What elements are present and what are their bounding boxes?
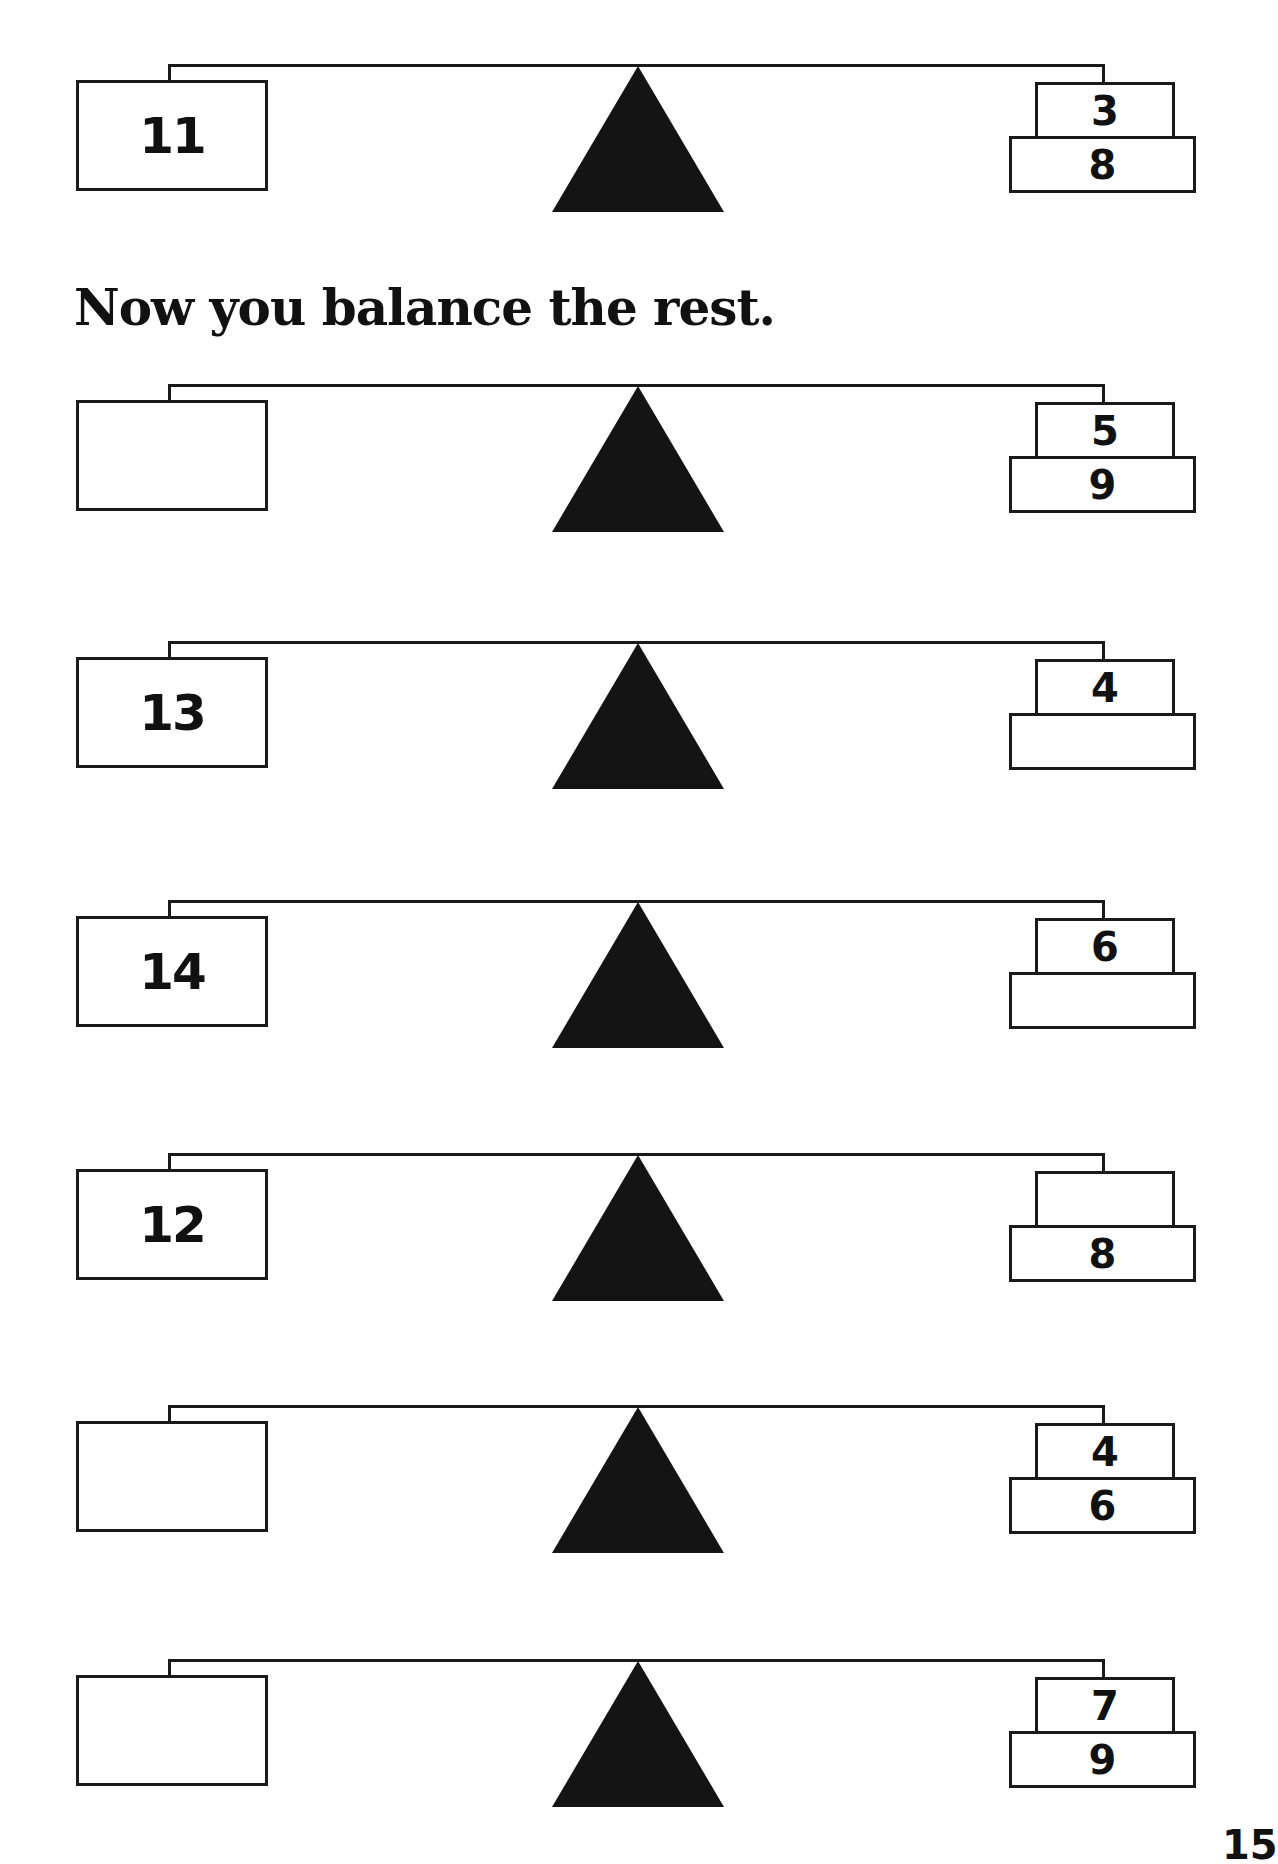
right-bottom-weight-box[interactable]: 9	[1009, 456, 1196, 513]
beam-post-right	[1102, 641, 1105, 661]
left-weight-box[interactable]	[76, 1421, 268, 1532]
beam-post-right	[1102, 1405, 1105, 1425]
page-number: 15	[1222, 1822, 1278, 1864]
left-weight-box[interactable]: 12	[76, 1169, 268, 1280]
left-weight-box[interactable]: 14	[76, 916, 268, 1027]
left-weight-box[interactable]	[76, 400, 268, 511]
right-top-weight-box[interactable]: 7	[1035, 1677, 1175, 1734]
fulcrum-triangle-icon	[552, 386, 724, 532]
beam-post-right	[1102, 900, 1105, 920]
right-bottom-weight-box[interactable]: 6	[1009, 1477, 1196, 1534]
right-top-weight-box[interactable]: 4	[1035, 659, 1175, 716]
fulcrum-triangle-icon	[552, 1661, 724, 1807]
right-top-weight-box[interactable]: 6	[1035, 918, 1175, 975]
fulcrum-triangle-icon	[552, 1407, 724, 1553]
beam-post-right	[1102, 384, 1105, 404]
beam-post-right	[1102, 1659, 1105, 1679]
beam-post-right	[1102, 1153, 1105, 1173]
right-top-weight-box[interactable]: 5	[1035, 402, 1175, 459]
balance-scale-problem-6: 79	[0, 0, 1247, 160]
instruction-heading: Now you balance the rest.	[74, 278, 775, 337]
right-bottom-weight-box[interactable]	[1009, 713, 1196, 770]
right-top-weight-box[interactable]: 4	[1035, 1423, 1175, 1480]
fulcrum-triangle-icon	[552, 902, 724, 1048]
right-top-weight-box[interactable]	[1035, 1171, 1175, 1228]
left-weight-box[interactable]	[76, 1675, 268, 1786]
right-bottom-weight-box[interactable]	[1009, 972, 1196, 1029]
right-bottom-weight-box[interactable]: 9	[1009, 1731, 1196, 1788]
fulcrum-triangle-icon	[552, 1155, 724, 1301]
left-weight-box[interactable]: 13	[76, 657, 268, 768]
fulcrum-triangle-icon	[552, 643, 724, 789]
right-bottom-weight-box[interactable]: 8	[1009, 1225, 1196, 1282]
